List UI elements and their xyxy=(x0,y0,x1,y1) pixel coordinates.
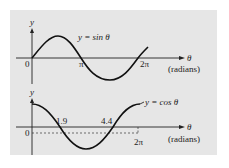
sine-radians-label: (radians) xyxy=(168,64,200,74)
cosine-origin-label: 0 xyxy=(25,128,30,138)
sine-plot: y θ (radians) 0 π 2π y = sin θ xyxy=(16,17,200,84)
sine-curve-label: y = sin θ xyxy=(77,32,110,42)
cosine-y-label: y xyxy=(29,87,34,97)
figure-svg: y θ (radians) 0 π 2π y = sin θ y θ (radi… xyxy=(0,0,229,168)
sine-theta-label: θ xyxy=(187,53,192,63)
sine-y-arrow-icon xyxy=(30,28,34,33)
cosine-curve-label: y = cos θ xyxy=(144,97,179,107)
cosine-plot: y θ (radians) 0 1.9 4.4 2π y = cos θ xyxy=(16,87,200,155)
cosine-theta-label: θ xyxy=(187,122,192,132)
cosine-radians-label: (radians) xyxy=(168,134,200,144)
sine-origin-label: 0 xyxy=(25,59,30,69)
sine-tick-2pi: 2π xyxy=(140,59,150,69)
cosine-curve xyxy=(32,104,140,149)
cosine-y-arrow-icon xyxy=(30,98,34,103)
cosine-label-leader xyxy=(140,102,144,104)
cosine-x-arrow-icon xyxy=(179,125,185,129)
cosine-tick-2pi: 2π xyxy=(134,137,144,147)
cosine-tick-4-4: 4.4 xyxy=(101,116,113,126)
sine-x-arrow-icon xyxy=(179,56,185,60)
sine-y-label: y xyxy=(29,17,34,27)
